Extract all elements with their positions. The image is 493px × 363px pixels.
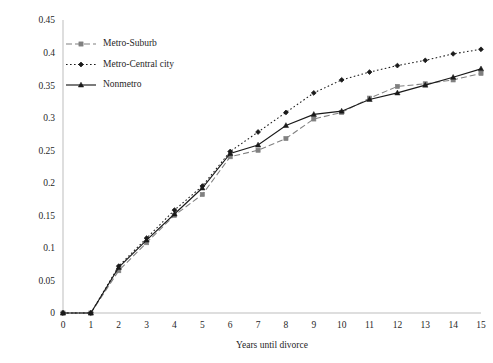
x-tick-label: 11 [365, 320, 374, 330]
y-tick-label: 0.45 [38, 15, 55, 25]
data-point-marker [311, 91, 316, 96]
legend-swatch-marker [79, 62, 84, 67]
x-tick-label: 10 [337, 320, 347, 330]
data-point-marker [395, 84, 399, 88]
y-tick-label: 0 [50, 308, 55, 318]
x-axis-tick-labels: 0123456789101112131415 [61, 320, 486, 330]
x-tick-label: 15 [476, 320, 486, 330]
x-tick-label: 0 [61, 320, 66, 330]
x-tick-label: 7 [256, 320, 261, 330]
x-tick-label: 6 [228, 320, 233, 330]
legend-item[interactable]: Nonmetro [66, 79, 142, 89]
data-point-marker [255, 142, 260, 147]
x-tick-label: 3 [144, 320, 149, 330]
data-point-marker [367, 70, 372, 75]
legend-item[interactable]: Metro-Suburb [66, 38, 157, 48]
x-tick-label: 9 [311, 320, 316, 330]
legend-item[interactable]: Metro-Central city [66, 59, 174, 69]
data-point-marker [423, 58, 428, 63]
legend-label: Nonmetro [103, 79, 142, 89]
series-line [63, 69, 481, 313]
data-point-marker [284, 136, 288, 140]
x-tick-label: 4 [172, 320, 177, 330]
x-tick-label: 1 [88, 320, 93, 330]
data-point-marker [200, 192, 204, 196]
data-point-marker [256, 130, 261, 135]
y-tick-label: 0.35 [38, 81, 55, 91]
y-tick-label: 0.05 [38, 276, 55, 286]
y-axis-tick-labels: 00.050.10.150.20.250.30.350.40.45 [38, 15, 55, 318]
series-nonmetro [60, 66, 483, 315]
y-tick-label: 0.2 [43, 178, 55, 188]
x-tick-label: 2 [116, 320, 121, 330]
data-point-marker [395, 63, 400, 68]
x-axis-title: Years until divorce [236, 340, 308, 350]
chart-container: 00.050.10.150.20.250.30.350.40.45 012345… [0, 0, 493, 363]
chart-legend: Metro-SuburbMetro-Central cityNonmetro [66, 38, 174, 89]
legend-label: Metro-Central city [103, 59, 174, 69]
y-tick-label: 0.25 [38, 146, 55, 156]
y-tick-label: 0.4 [43, 48, 55, 58]
data-point-marker [479, 47, 484, 52]
legend-swatch-marker [79, 42, 83, 46]
x-tick-label: 12 [393, 320, 403, 330]
series-metro-suburb [61, 71, 483, 315]
legend-label: Metro-Suburb [103, 38, 157, 48]
data-point-marker [479, 71, 483, 75]
x-tick-label: 5 [200, 320, 205, 330]
data-point-marker [339, 78, 344, 83]
y-tick-label: 0.15 [38, 211, 55, 221]
line-chart: 00.050.10.150.20.250.30.350.40.45 012345… [0, 0, 493, 363]
y-tick-label: 0.1 [43, 243, 55, 253]
series-line [63, 73, 481, 313]
data-point-marker [312, 117, 316, 121]
data-point-marker [256, 148, 260, 152]
data-point-marker [478, 66, 483, 71]
x-tick-label: 13 [421, 320, 431, 330]
y-tick-label: 0.3 [43, 113, 55, 123]
x-tick-label: 14 [448, 320, 458, 330]
x-tick-label: 8 [284, 320, 289, 330]
data-point-marker [451, 51, 456, 56]
